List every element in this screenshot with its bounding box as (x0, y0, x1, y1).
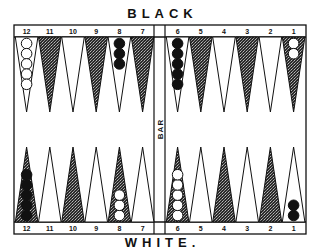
black-checker[interactable] (21, 169, 32, 180)
black-checker[interactable] (288, 200, 299, 211)
black-checker[interactable] (114, 59, 125, 70)
backgammon-board: 121110987654321121110987654321 BAR (0, 0, 325, 252)
bottom-point-number-9: 9 (94, 225, 98, 232)
top-point-number-8: 8 (117, 28, 121, 35)
black-checker[interactable] (21, 210, 32, 221)
white-checker[interactable] (172, 190, 183, 201)
white-checker[interactable] (172, 169, 183, 180)
white-checker[interactable] (114, 190, 125, 201)
black-checker[interactable] (288, 210, 299, 221)
white-checker[interactable] (288, 48, 299, 59)
bottom-point-number-1: 1 (292, 225, 296, 232)
white-checker[interactable] (21, 48, 32, 59)
top-point-number-9: 9 (94, 28, 98, 35)
white-checker[interactable] (21, 69, 32, 80)
white-checker[interactable] (172, 180, 183, 191)
black-checker[interactable] (21, 190, 32, 201)
bottom-point-number-3: 3 (245, 225, 249, 232)
black-checker[interactable] (21, 200, 32, 211)
black-checker[interactable] (172, 69, 183, 80)
top-point-number-4: 4 (222, 28, 226, 35)
top-point-number-10: 10 (69, 28, 77, 35)
black-checker[interactable] (114, 48, 125, 59)
white-checker[interactable] (172, 200, 183, 211)
black-checker[interactable] (21, 180, 32, 191)
top-point-number-7: 7 (141, 28, 145, 35)
bottom-point-number-5: 5 (199, 225, 203, 232)
bottom-point-number-4: 4 (222, 225, 226, 232)
top-point-number-11: 11 (46, 28, 54, 35)
black-checker[interactable] (172, 48, 183, 59)
top-point-number-5: 5 (199, 28, 203, 35)
bottom-point-number-6: 6 (176, 225, 180, 232)
bar-label: BAR (156, 119, 165, 139)
bottom-point-number-7: 7 (141, 225, 145, 232)
black-checker[interactable] (172, 79, 183, 90)
white-side-label: WHITE. (0, 235, 325, 250)
black-checker[interactable] (172, 59, 183, 70)
bottom-point-number-11: 11 (46, 225, 54, 232)
bottom-point-number-8: 8 (117, 225, 121, 232)
top-point-number-6: 6 (176, 28, 180, 35)
bottom-point-number-10: 10 (69, 225, 77, 232)
black-checker[interactable] (172, 38, 183, 49)
top-point-number-3: 3 (245, 28, 249, 35)
white-checker[interactable] (21, 59, 32, 70)
white-checker[interactable] (21, 38, 32, 49)
top-point-number-12: 12 (23, 28, 31, 35)
top-point-number-2: 2 (268, 28, 272, 35)
bottom-point-number-2: 2 (268, 225, 272, 232)
bottom-point-number-12: 12 (23, 225, 31, 232)
white-checker[interactable] (114, 210, 125, 221)
white-checker[interactable] (172, 210, 183, 221)
white-checker[interactable] (114, 200, 125, 211)
top-point-number-1: 1 (292, 28, 296, 35)
white-checker[interactable] (288, 38, 299, 49)
white-checker[interactable] (21, 79, 32, 90)
black-checker[interactable] (114, 38, 125, 49)
